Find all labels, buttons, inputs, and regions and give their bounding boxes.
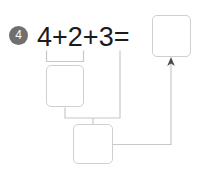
connector-step2-to-total <box>113 62 171 145</box>
equation-expression: 4+2+3= <box>37 22 129 52</box>
math-worksheet-problem: 4 4+2+3= <box>0 0 203 178</box>
first-partial-sum-box[interactable] <box>46 65 84 107</box>
equation-operator-1: + <box>52 22 68 52</box>
problem-number-badge: 4 <box>9 26 28 45</box>
equation-term-2: 2 <box>68 22 83 52</box>
equation-term-3: 3 <box>99 22 114 52</box>
bracket-4-plus-2 <box>47 51 84 62</box>
equation-operator-2: + <box>83 22 99 52</box>
second-partial-sum-box[interactable] <box>73 124 113 164</box>
equation-equals-sign: = <box>114 22 130 52</box>
total-answer-box[interactable] <box>152 15 191 57</box>
equation-term-1: 4 <box>37 22 52 52</box>
